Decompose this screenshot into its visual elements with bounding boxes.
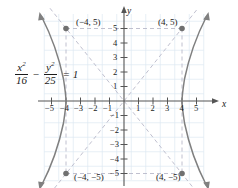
x-tick-label-neg2: −2 — [89, 103, 98, 113]
y-axis-arrow — [121, 6, 127, 13]
equation-label: x2 16 − y2 25 = 1 — [14, 62, 78, 86]
x-tick-label-neg5: −5 — [45, 103, 54, 113]
point-neg4-neg5 — [63, 171, 69, 177]
x-axis-arrow — [212, 98, 219, 104]
y-tick-label-1: 1 — [113, 81, 117, 91]
y-denominator: 25 — [44, 74, 57, 87]
x-tick-label-3: 3 — [165, 103, 169, 113]
minus-operator: − — [32, 69, 40, 80]
y-tick-label-4: 4 — [113, 38, 117, 48]
x-tick-label-4: 4 — [180, 103, 184, 113]
y-tick-label-neg1: −1 — [110, 110, 119, 120]
y-tick-label-neg5: −5 — [110, 168, 119, 178]
x-exponent: 2 — [22, 60, 26, 68]
x-tick-label-neg4: −4 — [60, 103, 69, 113]
y-tick-label-5: 5 — [113, 23, 117, 33]
y-tick-label-neg3: −3 — [110, 139, 119, 149]
point-label-bottom-left: (−4, −5) — [74, 172, 104, 182]
equation-rhs: = 1 — [60, 69, 78, 80]
point-4-5 — [179, 26, 185, 32]
x-tick-label-5: 5 — [194, 103, 198, 113]
x-denominator: 16 — [15, 74, 28, 87]
point-label-top-right: (4, 5) — [158, 17, 178, 27]
x-tick-label-1: 1 — [136, 103, 140, 113]
hyperbola-figure: x2 16 − y2 25 = 1 (−4, 5) (4, 5) (−4, −5… — [0, 0, 238, 188]
x-tick-label-2: 2 — [151, 103, 155, 113]
y-tick-label-3: 3 — [113, 52, 117, 62]
y-term-fraction: y2 25 — [44, 62, 57, 86]
point-neg4-5 — [63, 26, 69, 32]
y-axis-label: y — [127, 6, 131, 16]
point-label-top-left: (−4, 5) — [76, 17, 101, 27]
y-tick-label-neg2: −2 — [110, 125, 119, 135]
point-label-bottom-right: (4, −5) — [156, 172, 181, 182]
y-tick-label-neg4: −4 — [110, 154, 119, 164]
x-tick-label-neg3: −3 — [74, 103, 83, 113]
y-exponent: 2 — [51, 60, 55, 68]
y-tick-label-2: 2 — [113, 67, 117, 77]
x-axis-label: x — [222, 99, 226, 109]
x-term-fraction: x2 16 — [15, 62, 28, 86]
